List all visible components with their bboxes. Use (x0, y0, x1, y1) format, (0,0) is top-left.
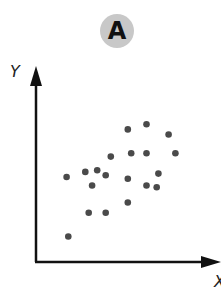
data-point (172, 150, 179, 157)
x-axis-arrow-icon (201, 256, 221, 268)
data-point (85, 209, 92, 216)
data-point (128, 150, 135, 157)
y-axis-arrow-icon (30, 66, 42, 86)
data-point (82, 169, 89, 176)
data-point (143, 150, 150, 157)
data-point (102, 209, 109, 216)
data-point (125, 199, 132, 206)
data-point (125, 126, 132, 133)
data-point (65, 233, 72, 240)
axes (30, 66, 221, 268)
data-point (165, 131, 172, 138)
data-points (63, 121, 178, 240)
data-point (102, 172, 109, 179)
data-point (108, 153, 115, 160)
data-point (153, 184, 160, 191)
data-point (143, 182, 150, 189)
scatter-plot (0, 0, 221, 289)
data-point (155, 170, 162, 177)
data-point (63, 174, 70, 181)
data-point (125, 175, 132, 182)
data-point (143, 121, 150, 128)
data-point (89, 182, 96, 189)
data-point (94, 167, 101, 174)
